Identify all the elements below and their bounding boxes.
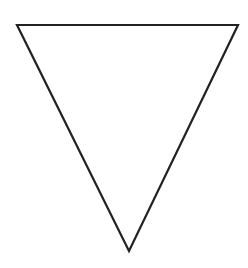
diagram-canvas bbox=[0, 0, 248, 268]
inverted-triangle-shape bbox=[17, 25, 238, 251]
triangle-diagram bbox=[0, 0, 248, 268]
